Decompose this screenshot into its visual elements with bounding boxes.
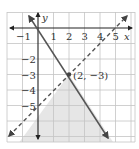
intersection-label: (2, −3) bbox=[73, 70, 108, 81]
x-tick-label: 5 bbox=[113, 31, 119, 42]
x-tick-label: 2 bbox=[66, 31, 72, 42]
x-tick-label: 1 bbox=[51, 31, 57, 42]
x-axis-label: x bbox=[124, 31, 130, 42]
y-tick-label: −3 bbox=[21, 70, 36, 81]
x-tick-label: 3 bbox=[82, 31, 88, 42]
x-tick-labels: −1 1 2 3 4 5 x bbox=[16, 31, 130, 42]
y-tick-label: −5 bbox=[21, 101, 36, 112]
y-axis-label: y bbox=[41, 12, 48, 23]
inequality-graph: −1 1 2 3 4 5 x y −2 −3 −4 −5 (2, −3) bbox=[0, 0, 139, 149]
x-tick-label: 4 bbox=[97, 31, 103, 42]
y-tick-label: −2 bbox=[21, 54, 36, 65]
y-tick-labels: y −2 −3 −4 −5 bbox=[21, 12, 48, 112]
x-tick-label: −1 bbox=[16, 31, 31, 42]
intersection-point bbox=[67, 72, 71, 76]
y-tick-label: −4 bbox=[21, 85, 36, 96]
